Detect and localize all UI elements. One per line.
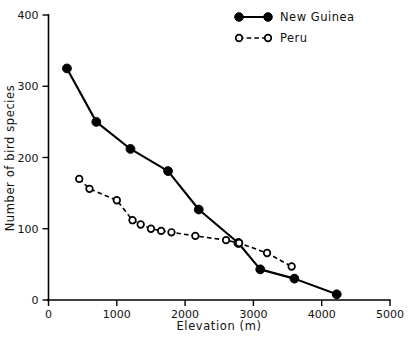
- legend-marker: [264, 13, 273, 22]
- data-point: [290, 274, 299, 283]
- legend-marker: [236, 35, 243, 42]
- legend-marker: [265, 35, 272, 42]
- y-tick-label: 300: [18, 80, 39, 93]
- data-point: [192, 233, 199, 240]
- chart-legend: New GuineaPeru: [235, 10, 355, 45]
- x-axis-ticks: [49, 300, 391, 306]
- series-new-guinea: [63, 64, 342, 299]
- series-line-1: [67, 68, 337, 294]
- y-tick-label: 400: [18, 9, 39, 22]
- data-point: [63, 64, 72, 73]
- legend-marker: [235, 13, 244, 22]
- y-axis-ticks: [43, 15, 49, 300]
- data-point: [76, 176, 83, 183]
- y-axis-title: Number of bird species: [3, 85, 17, 232]
- data-point: [114, 197, 121, 204]
- x-axis-group: 010002000300040005000: [45, 300, 404, 321]
- data-point: [148, 225, 155, 232]
- data-point: [137, 221, 144, 228]
- data-point: [194, 205, 203, 214]
- data-point: [256, 265, 265, 274]
- legend-label: New Guinea: [280, 10, 355, 24]
- data-point: [126, 145, 135, 154]
- legend-item-peru: Peru: [236, 31, 308, 45]
- x-tick-label: 1000: [103, 308, 131, 321]
- bird-species-elevation-chart: 0100200300400 010002000300040005000 Elev…: [0, 0, 420, 340]
- y-axis-tick-labels: 0100200300400: [18, 9, 39, 307]
- legend-label: Peru: [280, 31, 308, 45]
- x-tick-label: 4000: [308, 308, 336, 321]
- series-peru: [76, 176, 295, 270]
- y-tick-label: 0: [32, 294, 39, 307]
- data-point: [164, 167, 173, 176]
- data-point: [264, 250, 271, 257]
- data-point: [168, 229, 175, 236]
- x-tick-label: 0: [45, 308, 52, 321]
- data-point: [129, 217, 136, 224]
- data-point: [236, 240, 243, 247]
- data-point: [223, 237, 230, 244]
- data-point: [332, 290, 341, 299]
- x-tick-label: 5000: [376, 308, 404, 321]
- y-axis-group: 0100200300400: [18, 9, 49, 307]
- y-tick-label: 200: [18, 152, 39, 165]
- x-axis-title: Elevation (m): [176, 319, 261, 333]
- y-tick-label: 100: [18, 223, 39, 236]
- data-point: [288, 263, 295, 270]
- data-point: [158, 228, 165, 235]
- chart-canvas: 0100200300400 010002000300040005000 Elev…: [0, 0, 420, 340]
- data-point: [92, 117, 101, 126]
- legend-item-new-guinea: New Guinea: [235, 10, 355, 24]
- data-series-layer: [63, 64, 342, 299]
- data-point: [86, 186, 93, 193]
